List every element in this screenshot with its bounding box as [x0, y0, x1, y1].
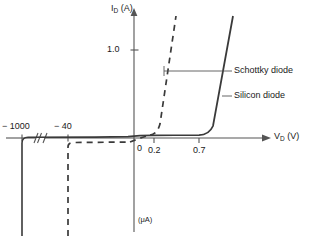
x-axis-title-unit: (V)	[287, 131, 299, 141]
silicon-forward-branch	[199, 16, 233, 135]
x-tick-label-0-2: 0.2	[148, 146, 161, 155]
schottky-breakdown-branch	[68, 142, 130, 236]
diode-iv-characteristic-figure: ID (A) VD (V) 1.0 − 1000 − 40 0 0.2 0.7 …	[0, 0, 309, 238]
axis-break-marks	[34, 133, 47, 143]
x-tick-label-minus-40: − 40	[54, 122, 72, 131]
y-axis-title-unit: (A)	[121, 3, 133, 13]
annotation-schottky-diode: Schottky diode	[234, 66, 293, 75]
y-axis-title: ID (A)	[111, 4, 133, 15]
x-tick-label-zero: 0	[137, 144, 142, 153]
x-tick-label-minus-1000: − 1000	[2, 122, 30, 131]
chart-canvas	[0, 0, 309, 238]
axes-group	[6, 8, 271, 232]
series-schottky-diode	[68, 16, 176, 236]
negative-axis-unit-label: (μA)	[138, 216, 152, 224]
silicon-breakdown-branch	[22, 137, 95, 236]
annotation-silicon-diode: Silicon diode	[234, 91, 285, 100]
x-axis-title-sub: D	[280, 135, 285, 142]
y-axis-title-sub: D	[114, 7, 119, 14]
x-axis-arrowhead	[262, 135, 271, 142]
x-axis-title: VD (V)	[274, 132, 299, 143]
schottky-forward-branch	[150, 16, 176, 135]
x-tick-label-0-7: 0.7	[193, 146, 206, 155]
silicon-leakage-branch	[95, 135, 199, 137]
y-tick-label-1-0: 1.0	[107, 45, 120, 54]
